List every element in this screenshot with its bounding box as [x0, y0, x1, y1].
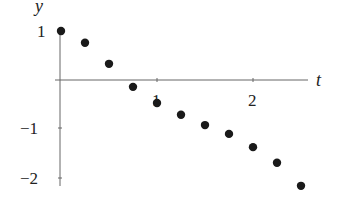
data-point — [225, 130, 233, 138]
data-point — [297, 182, 305, 190]
scatter-plot: y t 1 −1 −2 1 2 — [0, 0, 342, 206]
y-tick-label-1: 1 — [37, 22, 46, 41]
data-point — [129, 83, 137, 91]
data-point — [273, 159, 281, 167]
data-point — [153, 99, 161, 107]
x-tick-label-2: 2 — [248, 91, 257, 110]
data-point — [201, 121, 209, 129]
data-point — [57, 27, 65, 35]
y-tick-label-m2: −2 — [20, 169, 38, 188]
x-axis-label: t — [316, 70, 322, 90]
data-point — [105, 60, 113, 68]
data-points — [57, 27, 305, 190]
data-point — [81, 39, 89, 47]
y-tick-label-m1: −1 — [20, 119, 38, 138]
data-point — [249, 143, 257, 151]
data-point — [177, 111, 185, 119]
y-axis-label: y — [33, 0, 43, 16]
